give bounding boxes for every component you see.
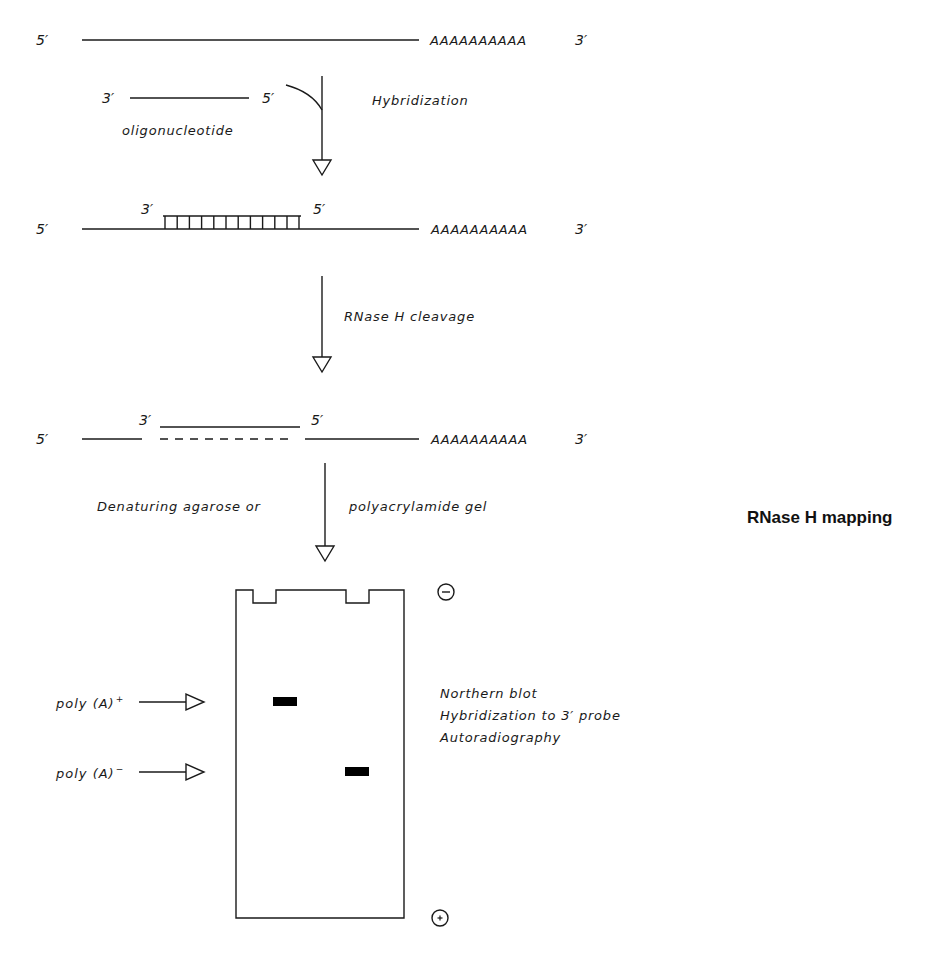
- polyA-minus-text: poly (A): [56, 766, 115, 781]
- arrow-head-icon-2: [313, 357, 331, 372]
- step2-mrna-5prime: 5′: [36, 222, 48, 236]
- step1-mrna-5prime: 5′: [36, 33, 48, 47]
- hybrid-3prime: 3′: [141, 202, 153, 216]
- hybrid-5prime: 5′: [313, 202, 325, 216]
- polyA-minus-label: poly (A)−: [56, 765, 124, 780]
- polyA-plus-text: poly (A): [56, 696, 115, 711]
- arrow-head-icon-3: [316, 546, 334, 561]
- note-hybridization-probe: Hybridization to 3′ probe: [440, 709, 621, 722]
- polyA-plus-label: poly (A)+: [56, 695, 124, 710]
- hybridization-curve: [286, 85, 322, 110]
- step3-oligo-5prime: 5′: [311, 413, 323, 427]
- arrow-head-icon-1: [313, 160, 331, 175]
- diagram-graphics: [0, 0, 934, 953]
- denaturing-gel-label-left: Denaturing agarose or: [97, 500, 261, 513]
- hybridization-label: Hybridization: [372, 94, 469, 107]
- step3-oligo-3prime: 3′: [139, 413, 151, 427]
- step2-mrna-3prime: 3′: [575, 222, 587, 236]
- step3-polyA-tail: AAAAAAAAAA: [431, 433, 528, 446]
- polyA-minus-superscript: −: [116, 764, 125, 774]
- step1-mrna-3prime: 3′: [575, 33, 587, 47]
- hybrid-rungs: [165, 216, 299, 229]
- gel-outline: [236, 590, 404, 918]
- rnase-h-mapping-diagram: 5′ AAAAAAAAAA 3′ 3′ 5′ oligonucleotide H…: [0, 0, 934, 953]
- oligo-5prime: 5′: [262, 91, 274, 105]
- rnase-h-cleavage-label: RNase H cleavage: [344, 310, 475, 323]
- note-northern-blot: Northern blot: [440, 687, 537, 700]
- band-polyA-plus: [273, 697, 297, 706]
- step3-mrna-3prime: 3′: [575, 432, 587, 446]
- oligo-3prime: 3′: [102, 91, 114, 105]
- note-autoradiography: Autoradiography: [440, 731, 561, 744]
- figure-title: RNase H mapping: [747, 508, 892, 528]
- step1-polyA-tail: AAAAAAAAAA: [430, 34, 527, 47]
- polyA-plus-superscript: +: [116, 694, 125, 704]
- denaturing-gel-label-right: polyacrylamide gel: [349, 500, 487, 513]
- polyA-plus-arrow-icon: [186, 694, 204, 710]
- step2-polyA-tail: AAAAAAAAAA: [431, 223, 528, 236]
- step3-mrna-5prime: 5′: [36, 432, 48, 446]
- band-polyA-minus: [345, 767, 369, 776]
- polyA-minus-arrow-icon: [186, 764, 204, 780]
- oligonucleotide-label: oligonucleotide: [122, 124, 234, 137]
